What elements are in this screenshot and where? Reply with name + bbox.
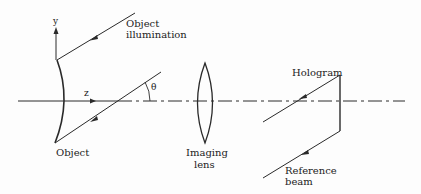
z-axis-label: z	[84, 88, 89, 98]
reference-beam-label-2: beam	[285, 176, 313, 187]
y-axis	[54, 27, 59, 60]
object-illumination-beam	[57, 13, 135, 60]
beam-arrow-icon	[90, 35, 98, 41]
imaging-lens	[198, 63, 213, 143]
y-arrow-icon	[54, 27, 59, 34]
ray-arrow-icon	[301, 150, 309, 155]
hologram-upper-ray	[263, 75, 340, 122]
imaging-lens-label-1: Imaging	[186, 147, 228, 158]
imaging-lens-label-2: lens	[194, 159, 215, 170]
theta-arc	[145, 82, 150, 101]
z-arrow-icon	[90, 99, 96, 104]
object-label: Object	[56, 147, 89, 158]
object-illumination-label-1: Object	[126, 18, 159, 29]
object-illumination-label-2: illumination	[126, 29, 187, 40]
hologram-diagram: y z θ Object illumination Object Imaging…	[0, 0, 421, 194]
y-axis-label: y	[52, 16, 59, 26]
reference-beam-label-1: Reference	[285, 165, 337, 176]
ray-arrow-icon	[299, 94, 307, 99]
theta-label: θ	[151, 82, 156, 92]
hologram-label: Hologram	[292, 67, 343, 78]
